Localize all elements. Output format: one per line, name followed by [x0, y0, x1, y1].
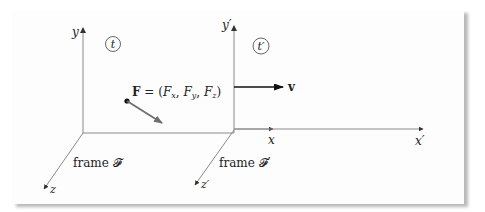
force-arrow — [127, 101, 162, 123]
z-prime-axis-label: z′ — [200, 178, 210, 191]
y-prime-axis-label: y′ — [221, 18, 232, 32]
time-t-label: t — [111, 38, 116, 51]
velocity-vector: v — [234, 80, 296, 94]
frame-f-label: frame 𝓕 — [73, 156, 124, 170]
frame-f-prime-label: frame 𝓕′ — [219, 156, 271, 170]
velocity-label: v — [287, 80, 296, 94]
force-vector: F = (Fx, Fy, Fz) — [124, 85, 221, 123]
time-t-badge: t — [106, 37, 121, 52]
x-axis-label: x — [268, 133, 275, 147]
frames-diagram: y y′ x x′ z z′ t t′ F = (Fx, Fy, Fz) v f… — [0, 0, 485, 212]
force-label: F = (Fx, Fy, Fz) — [132, 85, 221, 100]
x-prime-axis-label: x′ — [415, 134, 425, 148]
time-t-prime-label: t′ — [258, 40, 265, 53]
z-axis-label: z — [49, 183, 56, 196]
time-t-prime-badge: t′ — [253, 38, 269, 54]
y-axis-label: y — [71, 25, 79, 39]
